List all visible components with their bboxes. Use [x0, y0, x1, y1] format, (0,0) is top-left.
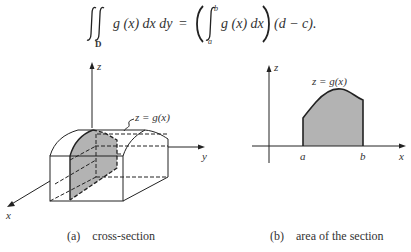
caption-b-tag: (b) — [270, 229, 284, 243]
interval-end-label: b — [360, 150, 366, 162]
caption-b: (b)area of the section — [270, 229, 384, 244]
x-axis-label: x — [398, 150, 404, 162]
curve-label: z = g(x) — [311, 75, 347, 88]
caption-a-text: cross-section — [92, 229, 155, 243]
interval-start-label: a — [300, 150, 306, 162]
caption-a-tag: (a) — [67, 229, 80, 243]
x-axis-arrow — [399, 144, 406, 149]
z-axis-arrow — [267, 65, 272, 72]
caption-a: (a)cross-section — [67, 229, 155, 244]
z-axis-label: z — [273, 61, 279, 73]
figure-b-area-diagram: z x a b z = g(x) — [0, 0, 411, 228]
area-under-curve — [303, 89, 363, 146]
caption-b-text: area of the section — [296, 229, 384, 243]
